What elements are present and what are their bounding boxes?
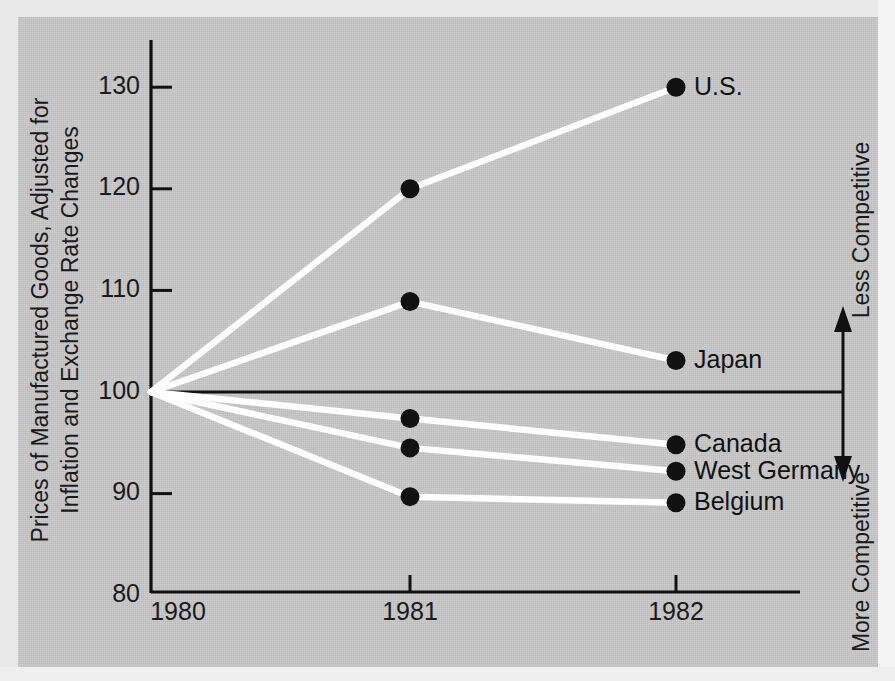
x-axis-tick-labels: 198019811982 xyxy=(150,597,704,625)
chart-figure: 1301201101009080 198019811982 U.S.JapanC… xyxy=(0,0,895,681)
data-point-u-s-1982 xyxy=(667,78,686,97)
less-competitive-note: Less Competitive xyxy=(848,142,874,318)
y-tick-label-90: 90 xyxy=(112,477,140,505)
series-line-west-germany xyxy=(151,392,676,471)
x-tick-label-1982: 1982 xyxy=(648,597,704,625)
x-tick-label-1981: 1981 xyxy=(382,597,438,625)
data-point-japan-1981 xyxy=(401,292,420,311)
series-label-canada: Canada xyxy=(694,429,782,457)
data-point-canada-1981 xyxy=(401,409,420,428)
series-labels: U.S.JapanCanadaWest GermanyBelgium xyxy=(694,72,861,516)
y-tick-label-130: 130 xyxy=(98,71,140,99)
data-point-japan-1982 xyxy=(667,351,686,370)
y-tick-label-100: 100 xyxy=(98,376,140,404)
series-label-japan: Japan xyxy=(694,345,762,373)
data-point-u-s-1981 xyxy=(401,179,420,198)
data-point-canada-1982 xyxy=(667,435,686,454)
y-tick-label-120: 120 xyxy=(98,172,140,200)
x-axis-ticks xyxy=(410,575,676,592)
series-line-japan xyxy=(151,302,676,392)
data-point-belgium-1982 xyxy=(667,493,686,512)
series-label-belgium: Belgium xyxy=(694,487,784,515)
series-markers xyxy=(401,78,686,513)
data-point-west-germany-1981 xyxy=(401,438,420,457)
data-point-west-germany-1982 xyxy=(667,462,686,481)
y-axis-ticks xyxy=(151,87,172,493)
y-axis-title-line1: Prices of Manufactured Goods, Adjusted f… xyxy=(27,97,53,542)
series-label-u-s: U.S. xyxy=(694,72,743,100)
y-tick-label-80: 80 xyxy=(112,579,140,607)
data-point-belgium-1981 xyxy=(401,487,420,506)
x-tick-label-1980: 1980 xyxy=(150,597,206,625)
y-axis-title-line2: Inflation and Exchange Rate Changes xyxy=(57,126,83,513)
more-competitive-note: More Competitive xyxy=(848,472,874,652)
y-axis-tick-labels: 1301201101009080 xyxy=(98,71,140,607)
slope-chart: 1301201101009080 198019811982 U.S.JapanC… xyxy=(0,0,895,681)
y-tick-label-110: 110 xyxy=(100,274,140,302)
